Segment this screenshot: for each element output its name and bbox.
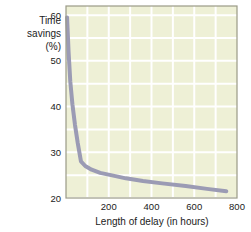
chart-figure: 2030405060 200400600800 Time savings (%)… <box>0 0 251 232</box>
x-axis-tick-labels: 200400600800 <box>101 201 245 212</box>
y-tick-label: 30 <box>50 147 61 158</box>
line-chart: 2030405060 200400600800 Time savings (%)… <box>0 0 251 232</box>
x-axis-title: Length of delay (in hours) <box>95 216 208 227</box>
y-axis-title-line-2: savings <box>27 28 61 39</box>
x-tick-label: 400 <box>144 201 160 212</box>
y-tick-label: 20 <box>50 193 61 204</box>
y-axis-title-line-1: Time <box>39 15 61 26</box>
y-axis-title-line-3: (%) <box>45 41 61 52</box>
y-tick-label: 40 <box>50 101 61 112</box>
y-tick-label: 50 <box>50 55 61 66</box>
x-tick-label: 800 <box>229 201 245 212</box>
x-tick-label: 600 <box>186 201 202 212</box>
x-tick-label: 200 <box>101 201 117 212</box>
